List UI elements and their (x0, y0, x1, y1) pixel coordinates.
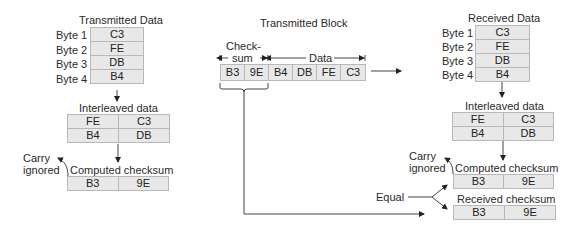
byte-label: Byte 1 (442, 27, 473, 39)
received-data-title: Received Data (468, 12, 540, 24)
checksum-cell: B3 (454, 206, 505, 220)
byte-value: FE (476, 40, 530, 54)
byte-value: B4 (476, 68, 530, 82)
transmitted-block-title: Transmitted Block (260, 17, 348, 29)
received-checksum-table: B3 9E (453, 205, 556, 220)
interleaved-data-title: Interleaved data (465, 100, 544, 112)
byte-value: C3 (91, 28, 144, 42)
checksum-dimension-label: Check- (226, 40, 261, 52)
checksum-cell: B3 (454, 175, 504, 189)
equal-label: Equal (376, 191, 404, 203)
byte-value: B4 (91, 70, 144, 84)
received-bytes-table: C3 FE DB B4 (475, 25, 530, 82)
transmitted-block-table: B3 9E B4 DB FE C3 (220, 64, 366, 81)
byte-label: Byte 4 (442, 69, 473, 81)
byte-value: DB (476, 54, 530, 68)
interleaved-cell: C3 (119, 115, 170, 129)
computed-checksum-table: B3 9E (453, 174, 554, 189)
computed-checksum-table: B3 9E (67, 176, 169, 191)
data-dimension-label: Data (308, 52, 333, 64)
block-cell: 9E (245, 65, 269, 81)
interleaved-data-title: Interleaved data (79, 102, 158, 114)
interleaved-table: FE C3 B4 DB (67, 114, 170, 143)
computed-checksum-title: Computed checksum (70, 164, 173, 176)
byte-value: DB (91, 56, 144, 70)
computed-checksum-title: Computed checksum (455, 162, 558, 174)
ignored-label: ignored (23, 164, 60, 176)
block-cell: B3 (221, 65, 245, 81)
transmitted-bytes-table: C3 FE DB B4 (90, 27, 144, 84)
byte-value: C3 (476, 26, 530, 40)
interleaved-cell: DB (119, 129, 170, 143)
interleaved-cell: FE (68, 115, 119, 129)
carry-label: Carry (23, 152, 50, 164)
interleaved-cell: B4 (68, 129, 119, 143)
checksum-dimension-label-2: sum (231, 52, 254, 64)
transmitted-data-title: Transmitted Data (79, 14, 163, 26)
byte-label: Byte 3 (56, 58, 87, 70)
interleaved-table: FE C3 B4 DB (452, 112, 554, 141)
checksum-cell: 9E (504, 175, 554, 189)
checksum-cell: 9E (118, 177, 169, 191)
byte-label: Byte 2 (56, 44, 87, 56)
interleaved-cell: DB (503, 127, 554, 141)
byte-label: Byte 4 (56, 73, 87, 85)
interleaved-cell: B4 (453, 127, 504, 141)
checksum-cell: 9E (505, 206, 556, 220)
byte-label: Byte 2 (442, 41, 473, 53)
byte-label: Byte 3 (442, 55, 473, 67)
interleaved-cell: FE (453, 113, 504, 127)
block-cell: B4 (269, 65, 293, 81)
carry-label: Carry (409, 150, 436, 162)
block-cell: FE (317, 65, 341, 81)
byte-value: FE (91, 42, 144, 56)
byte-label: Byte 1 (56, 29, 87, 41)
block-cell: C3 (341, 65, 366, 81)
block-cell: DB (293, 65, 317, 81)
interleaved-cell: C3 (503, 113, 554, 127)
received-checksum-title: Received checksum (457, 193, 555, 205)
checksum-cell: B3 (68, 177, 119, 191)
ignored-label: ignored (409, 162, 446, 174)
